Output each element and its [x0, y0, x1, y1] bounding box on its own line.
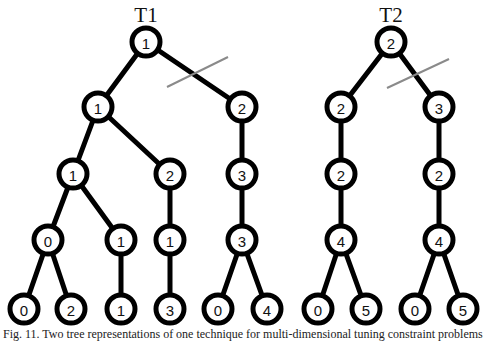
tree-node: 2 — [156, 160, 184, 188]
node-label: 3 — [166, 302, 174, 319]
tree-title: T1 — [134, 3, 157, 27]
node-label: 4 — [435, 233, 443, 250]
tree-node: 2 — [425, 160, 453, 188]
tree-node: 1 — [84, 93, 112, 121]
tree-node: 1 — [107, 295, 135, 323]
node-label: 1 — [69, 167, 77, 184]
node-label: 4 — [337, 233, 345, 250]
node-label: 2 — [337, 100, 345, 117]
tree-node: 1 — [132, 28, 160, 56]
tree-node: 2 — [228, 93, 256, 121]
node-label: 4 — [263, 302, 271, 319]
tree-node: 1 — [156, 226, 184, 254]
node-label: 1 — [94, 100, 102, 117]
node-label: 2 — [67, 302, 75, 319]
node-label: 1 — [117, 302, 125, 319]
node-label: 5 — [362, 302, 370, 319]
tree-node: 1 — [107, 226, 135, 254]
tree-node: 2 — [327, 93, 355, 121]
node-label: 5 — [459, 302, 467, 319]
tree-node: 0 — [10, 295, 38, 323]
tree-node: 0 — [34, 226, 62, 254]
tree-node: 3 — [425, 93, 453, 121]
titles-layer: T1T2 — [134, 3, 402, 27]
cut-mark — [387, 59, 449, 88]
node-label: 0 — [214, 302, 222, 319]
node-label: 1 — [166, 233, 174, 250]
node-label: 2 — [166, 167, 174, 184]
node-label: 1 — [142, 35, 150, 52]
node-label: 1 — [117, 233, 125, 250]
node-label: 0 — [411, 302, 419, 319]
figure-caption: Fig. 11. Two tree representations of one… — [3, 327, 483, 342]
tree-node: 2 — [327, 160, 355, 188]
tree-node: 0 — [204, 295, 232, 323]
tree-node: 4 — [327, 226, 355, 254]
node-label: 2 — [238, 100, 246, 117]
tree-node: 4 — [425, 226, 453, 254]
tree-node: 3 — [228, 226, 256, 254]
node-label: 2 — [435, 167, 443, 184]
node-label: 0 — [44, 233, 52, 250]
tree-node: 1 — [59, 160, 87, 188]
tree-node: 0 — [304, 295, 332, 323]
tree-node: 4 — [253, 295, 281, 323]
tree-node: 3 — [156, 295, 184, 323]
tree-node: 2 — [57, 295, 85, 323]
tree-node: 5 — [449, 295, 477, 323]
node-label: 0 — [20, 302, 28, 319]
node-label: 3 — [238, 233, 246, 250]
node-label: 3 — [435, 100, 443, 117]
node-label: 2 — [337, 167, 345, 184]
tree-node: 5 — [352, 295, 380, 323]
tree-node: 3 — [228, 160, 256, 188]
node-label: 3 — [238, 167, 246, 184]
nodes-layer: 112123011302130422322440505 — [10, 28, 477, 323]
tree-node: 0 — [401, 295, 429, 323]
node-label: 0 — [314, 302, 322, 319]
tree-node: 2 — [377, 28, 405, 56]
tree-title: T2 — [379, 3, 402, 27]
node-label: 2 — [387, 35, 395, 52]
